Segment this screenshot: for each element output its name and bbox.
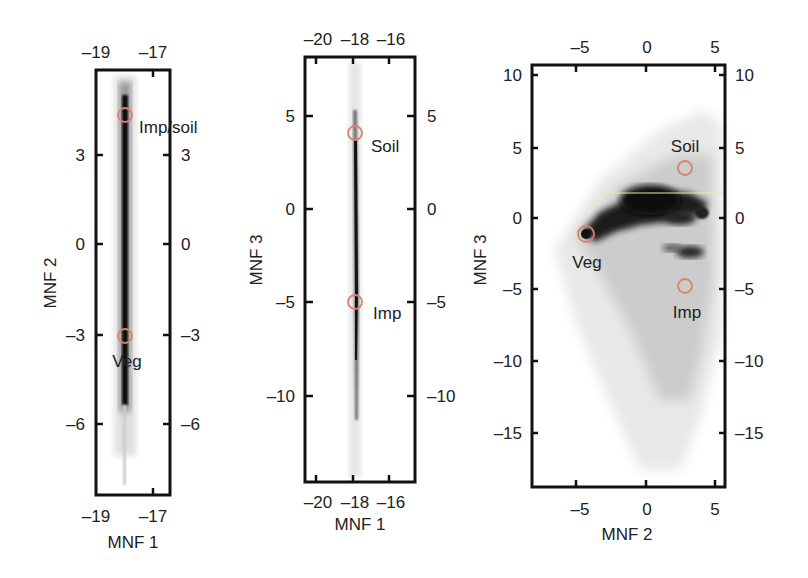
- scatter-cloud: [349, 62, 361, 477]
- left-tick: –6: [66, 415, 85, 434]
- x-axis-label: MNF 1: [335, 515, 386, 534]
- y-axis-label: MNF 3: [471, 235, 490, 286]
- left-tick: 3: [76, 146, 85, 165]
- annotation-imp: Imp: [673, 303, 701, 322]
- right-tick: –6: [181, 415, 200, 434]
- right-tick: 0: [735, 209, 744, 228]
- scatter-cloud: [555, 110, 722, 470]
- panel-mnf1-vs-mnf3: –20 –18 –16 –20 –18 –16 5 0 –5 –10 5 0 –…: [247, 30, 455, 534]
- top-tick: –17: [139, 43, 167, 62]
- left-tick: 5: [286, 107, 295, 126]
- top-tick: –5: [571, 38, 590, 57]
- bottom-tick: –5: [571, 500, 590, 519]
- top-tick: 5: [710, 38, 719, 57]
- bottom-tick: –18: [341, 493, 369, 512]
- left-tick: –15: [494, 424, 522, 443]
- bottom-tick: –16: [377, 493, 405, 512]
- right-tick: –15: [735, 424, 763, 443]
- scatter-cloud: [114, 76, 136, 485]
- top-tick: 0: [642, 38, 651, 57]
- bottom-tick: 0: [642, 500, 651, 519]
- annotation-soil: Soil: [371, 137, 399, 156]
- right-tick: 5: [427, 107, 436, 126]
- right-tick: –10: [735, 352, 763, 371]
- top-tick: –20: [304, 30, 332, 49]
- right-tick: –3: [181, 326, 200, 345]
- right-tick: 10: [735, 66, 754, 85]
- panel-mnf1-vs-mnf2: –19 –17 –19 –17 3 0 –3 –6 3 0 –3 –6 MNF …: [41, 43, 200, 552]
- y-axis-label: MNF 2: [41, 258, 60, 309]
- left-tick: 0: [286, 200, 295, 219]
- left-tick: –10: [494, 352, 522, 371]
- x-axis-label: MNF 2: [602, 525, 653, 544]
- panel-mnf2-vs-mnf3: –5 0 5 –5 0 5 10 5 0 –5 –10 –15 10 5 0 –…: [471, 38, 763, 544]
- x-axis-label: MNF 1: [108, 533, 159, 552]
- right-tick: 0: [427, 200, 436, 219]
- annotation-imp-soil: Imp/soil: [139, 118, 198, 137]
- right-tick: –10: [427, 387, 455, 406]
- bottom-tick: –17: [139, 507, 167, 526]
- right-tick: –5: [427, 293, 446, 312]
- right-tick: 3: [181, 146, 190, 165]
- right-tick: 0: [181, 235, 190, 254]
- right-tick: –5: [735, 280, 754, 299]
- left-tick: 5: [513, 139, 522, 158]
- left-tick: –3: [66, 326, 85, 345]
- annotation-soil: Soil: [671, 137, 699, 156]
- annotation-veg: Veg: [112, 352, 141, 371]
- top-tick: –19: [82, 43, 110, 62]
- top-tick: –18: [341, 30, 369, 49]
- left-tick: –10: [267, 387, 295, 406]
- y-axis-label: MNF 3: [247, 235, 266, 286]
- bottom-tick: 5: [710, 500, 719, 519]
- right-tick: 5: [735, 139, 744, 158]
- left-tick: 10: [503, 66, 522, 85]
- left-tick: –5: [503, 280, 522, 299]
- annotation-veg: Veg: [572, 253, 601, 272]
- figure: –19 –17 –19 –17 3 0 –3 –6 3 0 –3 –6 MNF …: [0, 0, 808, 578]
- left-tick: –5: [276, 293, 295, 312]
- left-tick: 0: [513, 209, 522, 228]
- left-tick: 0: [76, 235, 85, 254]
- annotation-imp: Imp: [373, 304, 401, 323]
- top-tick: –16: [377, 30, 405, 49]
- bottom-tick: –20: [304, 493, 332, 512]
- bottom-tick: –19: [82, 507, 110, 526]
